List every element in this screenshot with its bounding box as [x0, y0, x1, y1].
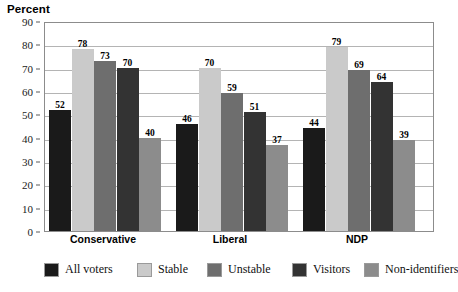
legend-item-unstable[interactable]: Unstable: [207, 262, 271, 277]
bar: [326, 47, 348, 231]
y-tick-label: 70: [22, 63, 33, 75]
legend-item-visitors[interactable]: Visitors: [292, 262, 350, 277]
bar-value-label: 52: [55, 100, 65, 110]
y-tick-mark: [36, 138, 40, 139]
legend-item-stable[interactable]: Stable: [137, 262, 188, 277]
y-tick-mark: [36, 232, 40, 233]
bar-value-label: 64: [377, 72, 387, 82]
y-tick-label: 30: [22, 156, 33, 168]
bar-value-label: 73: [100, 51, 110, 61]
bar-value-label: 40: [145, 128, 155, 138]
legend-label: Unstable: [228, 262, 271, 277]
chart-legend: All votersStableUnstableVisitorsNon-iden…: [44, 262, 434, 284]
bar: [176, 124, 198, 231]
bar-value-label: 59: [227, 83, 237, 93]
y-tick-mark: [36, 92, 40, 93]
y-tick-label: 20: [22, 179, 33, 191]
y-tick-mark: [36, 185, 40, 186]
legend-label: Stable: [158, 262, 188, 277]
bar-value-label: 69: [354, 60, 364, 70]
bar: [393, 140, 415, 231]
bar-value-label: 78: [78, 39, 88, 49]
y-axis: 0102030405060708090: [0, 22, 40, 232]
bar-value-label: 37: [272, 135, 282, 145]
bar: [49, 110, 71, 231]
y-tick-mark: [36, 208, 40, 209]
y-tick-mark: [36, 115, 40, 116]
legend-swatch-icon: [364, 263, 379, 277]
legend-swatch-icon: [44, 263, 59, 277]
bar: [221, 93, 243, 231]
bar: [303, 128, 325, 231]
y-tick-label: 60: [22, 86, 33, 98]
bar: [348, 70, 370, 231]
bar: [199, 68, 221, 231]
page-title: Percent: [7, 3, 50, 15]
bar-value-label: 44: [309, 118, 319, 128]
y-tick-mark: [36, 22, 40, 23]
bar: [94, 61, 116, 231]
y-tick-mark: [36, 162, 40, 163]
bar-value-label: 39: [399, 130, 409, 140]
bar: [371, 82, 393, 231]
legend-swatch-icon: [292, 263, 307, 277]
legend-swatch-icon: [137, 263, 152, 277]
bars-layer: 527873704046705951374479696439: [45, 23, 433, 231]
bar: [266, 145, 288, 231]
bar-value-label: 46: [182, 114, 192, 124]
bar-value-label: 70: [123, 58, 133, 68]
x-axis-group-labels: ConservativeLiberalNDP: [44, 233, 434, 251]
y-tick-label: 80: [22, 39, 33, 51]
y-tick-mark: [36, 68, 40, 69]
bar: [117, 68, 139, 231]
bar: [244, 112, 266, 231]
bar: [139, 138, 161, 231]
legend-item-all-voters[interactable]: All voters: [44, 262, 113, 277]
bar-value-label: 51: [250, 102, 260, 112]
legend-item-non-identifiers[interactable]: Non-identifiers: [364, 262, 458, 277]
y-tick-label: 50: [22, 109, 33, 121]
x-axis-label-liberal: Liberal: [213, 233, 247, 245]
plot-area: 527873704046705951374479696439: [44, 22, 434, 232]
x-axis-label-ndp: NDP: [346, 233, 368, 245]
x-axis-label-conservative: Conservative: [70, 233, 136, 245]
legend-swatch-icon: [207, 263, 222, 277]
legend-label: Non-identifiers: [385, 262, 458, 277]
y-tick-label: 90: [22, 16, 33, 28]
y-tick-label: 0: [28, 226, 34, 238]
bar-value-label: 79: [332, 37, 342, 47]
bar: [72, 49, 94, 231]
y-tick-label: 40: [22, 133, 33, 145]
y-tick-label: 10: [22, 203, 33, 215]
legend-label: All voters: [65, 262, 113, 277]
legend-label: Visitors: [313, 262, 350, 277]
y-tick-mark: [36, 45, 40, 46]
bar-value-label: 70: [205, 58, 215, 68]
